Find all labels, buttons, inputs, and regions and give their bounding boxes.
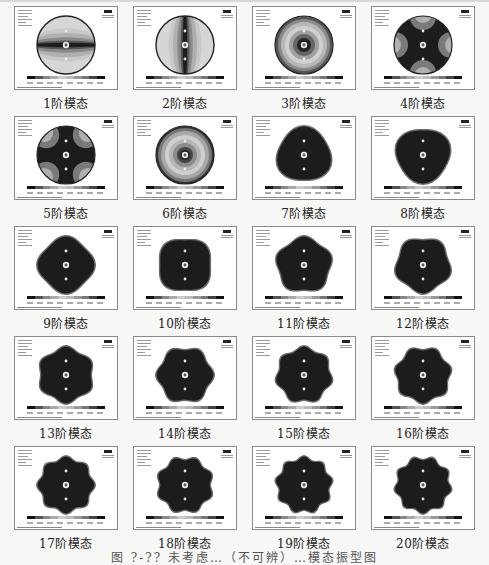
mode-shape-contour-icon <box>34 233 98 301</box>
colorbar-tick-labels <box>265 522 343 524</box>
plot-info-text <box>137 120 151 138</box>
plot-footer-text <box>136 417 181 418</box>
fea-plot-panel <box>252 6 356 90</box>
plot-info-text <box>375 450 389 468</box>
mode-shape-contour-icon <box>153 13 217 81</box>
plot-info-text <box>18 10 32 28</box>
ansys-logo-icon <box>461 230 469 233</box>
plot-footer-text <box>17 527 62 528</box>
fea-plot-panel <box>133 226 237 310</box>
ansys-logo-icon <box>342 230 350 233</box>
fea-plot-panel <box>133 116 237 200</box>
mode-shape-contour-icon <box>391 13 455 81</box>
colorbar-tick-labels <box>265 302 343 304</box>
colorbar-tick-labels <box>146 302 224 304</box>
fea-plot-panel <box>371 226 475 310</box>
plot-date-text <box>340 15 352 16</box>
plot-date-text <box>221 345 233 346</box>
plot-footer-text <box>17 197 62 198</box>
ansys-logo-icon <box>342 10 350 13</box>
plot-footer-text <box>255 307 300 308</box>
fea-plot-panel <box>252 116 356 200</box>
fea-plot-panel <box>14 226 118 310</box>
plot-footer-text <box>136 87 181 88</box>
fea-plot-panel <box>14 446 118 530</box>
plot-info-text <box>18 230 32 248</box>
mode-shape-contour-icon <box>153 453 217 521</box>
colorbar-tick-labels <box>27 302 105 304</box>
mode-shape-contour-icon <box>391 123 455 191</box>
fea-plot-panel <box>252 226 356 310</box>
contour-colorbar <box>27 516 105 519</box>
mode-shape-contour-icon <box>272 343 336 411</box>
colorbar-tick-labels <box>384 522 462 524</box>
ansys-logo-icon <box>223 10 231 13</box>
figure-caption: 图 ?-?? 未考虑…（不可辨）…模态振型图 <box>0 548 489 565</box>
mode-label: 12阶模态 <box>396 314 450 331</box>
mode-shape-cell: 9阶模态 <box>10 226 122 332</box>
plot-info-text <box>18 120 32 138</box>
mode-label: 1阶模态 <box>43 94 89 111</box>
mode-shape-contour-icon <box>272 123 336 191</box>
mode-shape-cell: 15阶模态 <box>248 336 360 442</box>
mode-shape-contour-icon <box>391 343 455 411</box>
contour-colorbar <box>146 186 224 189</box>
contour-colorbar <box>146 76 224 79</box>
fea-plot-panel <box>14 336 118 420</box>
mode-label: 4阶模态 <box>400 94 446 111</box>
plot-date-text <box>221 15 233 16</box>
ansys-logo-icon <box>104 450 112 453</box>
plot-date-text <box>459 345 471 346</box>
fea-plot-panel <box>252 446 356 530</box>
fea-plot-panel <box>371 336 475 420</box>
contour-colorbar <box>27 406 105 409</box>
colorbar-tick-labels <box>146 192 224 194</box>
mode-shape-cell: 1阶模态 <box>10 6 122 112</box>
fea-plot-panel <box>371 6 475 90</box>
colorbar-tick-labels <box>146 522 224 524</box>
mode-shape-cell: 10阶模态 <box>129 226 241 332</box>
mode-shape-contour-icon <box>391 453 455 521</box>
mode-shape-contour-icon <box>153 343 217 411</box>
ansys-logo-icon <box>223 340 231 343</box>
mode-label: 10阶模态 <box>158 314 212 331</box>
plot-info-text <box>18 340 32 358</box>
plot-info-text <box>375 340 389 358</box>
mode-shape-grid: 1阶模态 2阶模态 3阶模态 <box>10 6 479 552</box>
mode-shape-contour-icon <box>272 13 336 81</box>
mode-shape-cell: 7阶模态 <box>248 116 360 222</box>
plot-footer-text <box>17 307 62 308</box>
ansys-logo-icon <box>223 120 231 123</box>
plot-info-text <box>137 230 151 248</box>
plot-footer-text <box>136 527 181 528</box>
mode-shape-cell: 4阶模态 <box>367 6 479 112</box>
plot-date-text <box>340 125 352 126</box>
mode-label: 2阶模态 <box>162 94 208 111</box>
colorbar-tick-labels <box>265 412 343 414</box>
plot-date-text <box>459 125 471 126</box>
mode-label: 15阶模态 <box>277 424 331 441</box>
plot-footer-text <box>17 417 62 418</box>
fea-plot-panel <box>133 336 237 420</box>
mode-label: 13阶模态 <box>39 424 93 441</box>
plot-info-text <box>256 450 270 468</box>
plot-info-text <box>18 450 32 468</box>
mode-label: 16阶模态 <box>396 424 450 441</box>
mode-label: 14阶模态 <box>158 424 212 441</box>
contour-colorbar <box>27 76 105 79</box>
plot-date-text <box>221 455 233 456</box>
colorbar-tick-labels <box>384 82 462 84</box>
ansys-logo-icon <box>104 340 112 343</box>
colorbar-tick-labels <box>384 192 462 194</box>
colorbar-tick-labels <box>265 82 343 84</box>
colorbar-tick-labels <box>27 192 105 194</box>
contour-colorbar <box>146 296 224 299</box>
plot-info-text <box>256 120 270 138</box>
contour-colorbar <box>265 516 343 519</box>
contour-colorbar <box>146 406 224 409</box>
contour-colorbar <box>384 516 462 519</box>
page-top-rule <box>0 0 489 2</box>
fea-plot-panel <box>371 446 475 530</box>
contour-colorbar <box>384 76 462 79</box>
colorbar-tick-labels <box>384 412 462 414</box>
